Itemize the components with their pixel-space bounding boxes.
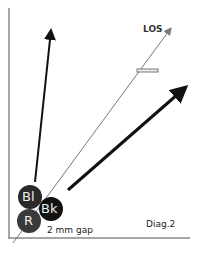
ball-r-label: R: [24, 213, 33, 228]
blue-ball-path-arrow: [35, 30, 51, 182]
ball-bk-label: Bk: [41, 201, 57, 216]
los-label: LOS: [143, 24, 163, 34]
diagram-caption: Diag.2: [146, 219, 175, 229]
gap-label: 2 mm gap: [47, 225, 93, 235]
line-of-sight: [13, 28, 171, 243]
black-ball-path-arrow: [68, 87, 186, 190]
ball-bl-label: Bl: [22, 189, 35, 204]
gap-marker-bar: [137, 69, 158, 72]
